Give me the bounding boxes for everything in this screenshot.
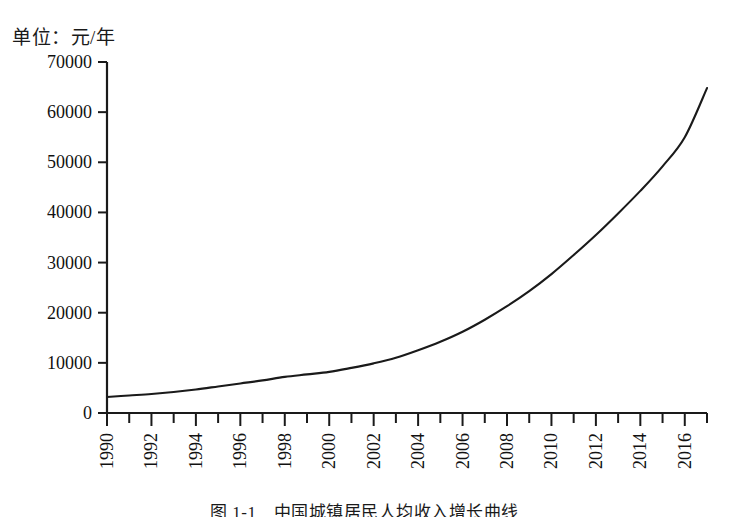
y-axis-tick-label: 60000 xyxy=(47,102,92,122)
y-axis-tick-label: 70000 xyxy=(47,52,92,72)
income-series-line xyxy=(107,88,707,397)
x-axis-tick-label: 2012 xyxy=(586,433,606,469)
x-axis-tick-label: 2010 xyxy=(541,433,561,469)
x-axis-tick-group: 1990199219941996199820002002200420062008… xyxy=(97,413,707,469)
y-axis-tick-label: 20000 xyxy=(47,303,92,323)
y-axis-tick-label: 30000 xyxy=(47,253,92,273)
y-axis-tick-label: 10000 xyxy=(47,353,92,373)
line-chart-plot: 010000200003000040000500006000070000 199… xyxy=(0,0,729,517)
x-axis-tick-label: 2008 xyxy=(497,433,517,469)
figure-caption: 图 1-1 中国城镇居民人均收入增长曲线 xyxy=(0,503,729,517)
y-axis-tick-group: 010000200003000040000500006000070000 xyxy=(47,52,107,423)
x-axis-tick-label: 2006 xyxy=(453,433,473,469)
x-axis-tick-label: 1994 xyxy=(186,433,206,469)
x-axis-tick-label: 2014 xyxy=(630,433,650,469)
x-axis-tick-label: 2004 xyxy=(408,433,428,469)
y-axis-tick-label: 0 xyxy=(83,403,92,423)
chart-container: 单位：元/年 010000200003000040000500006000070… xyxy=(0,0,729,517)
x-axis-tick-label: 1990 xyxy=(97,433,117,469)
x-axis-tick-label: 2016 xyxy=(675,433,695,469)
y-axis-tick-label: 50000 xyxy=(47,152,92,172)
y-axis-tick-label: 40000 xyxy=(47,202,92,222)
x-axis-tick-label: 2000 xyxy=(319,433,339,469)
x-axis-tick-label: 1996 xyxy=(230,433,250,469)
x-axis-tick-label: 1992 xyxy=(141,433,161,469)
x-axis-tick-label: 2002 xyxy=(364,433,384,469)
x-axis-tick-label: 1998 xyxy=(275,433,295,469)
